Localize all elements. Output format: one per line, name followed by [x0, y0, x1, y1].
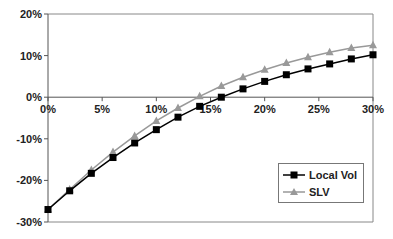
y-tick-label: -20% [16, 174, 42, 186]
data-point [218, 94, 225, 101]
data-point [261, 78, 268, 85]
data-point [326, 60, 333, 67]
x-tick-label: 30% [362, 103, 384, 115]
data-point [66, 187, 73, 194]
data-point [153, 126, 160, 133]
data-point [152, 116, 160, 124]
x-tick-label: 0% [40, 103, 56, 115]
data-point [370, 51, 377, 58]
legend-label: Local Vol [309, 169, 357, 181]
data-point [110, 154, 117, 161]
y-tick-label: -30% [16, 216, 42, 228]
square-marker-icon [283, 170, 305, 180]
y-tick-label: 0% [26, 91, 42, 103]
y-tick-label: 20% [20, 8, 42, 20]
data-point [348, 55, 355, 62]
legend: Local Vol SLV [278, 163, 364, 203]
data-point [369, 41, 377, 49]
data-point [131, 139, 138, 146]
data-point [131, 131, 139, 139]
data-point [305, 65, 312, 72]
y-tick-label: 10% [20, 50, 42, 62]
data-point [196, 103, 203, 110]
data-point [240, 85, 247, 92]
y-tick-label: -10% [16, 133, 42, 145]
data-point [175, 114, 182, 121]
data-point [109, 148, 117, 156]
x-tick-label: 10% [145, 103, 167, 115]
legend-label: SLV [309, 186, 330, 198]
triangle-marker-icon [283, 187, 305, 197]
data-point [283, 71, 290, 78]
x-tick-label: 20% [254, 103, 276, 115]
legend-item-local-vol: Local Vol [283, 167, 357, 183]
x-tick-label: 5% [94, 103, 110, 115]
legend-item-slv: SLV [283, 184, 330, 200]
line-chart: 20%10%0%-10%-20%-30%0%5%10%15%20%25%30% [0, 0, 393, 239]
data-point [45, 206, 52, 213]
x-tick-label: 25% [308, 103, 330, 115]
data-point [88, 170, 95, 177]
